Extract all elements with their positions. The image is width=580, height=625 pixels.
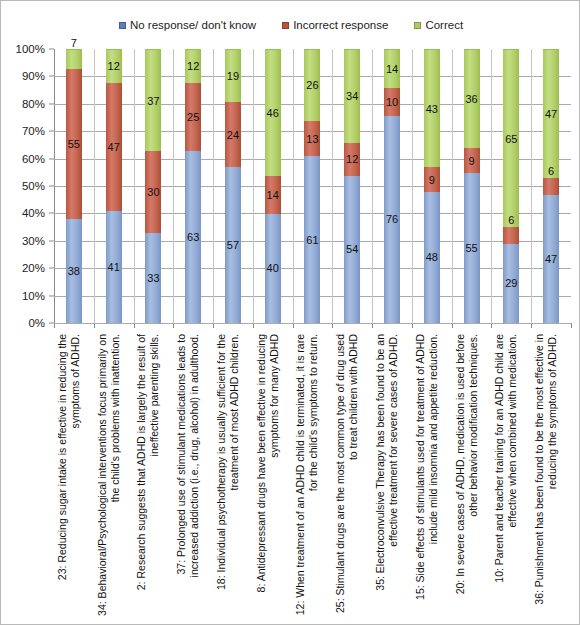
stacked-bar[interactable]: 47647	[543, 49, 559, 323]
bar-segment-incorrect-response[interactable]: 55	[66, 69, 82, 219]
y-axis-tick-label: 80%	[22, 98, 45, 110]
bar-segment-value-label: 33	[147, 272, 159, 283]
legend-label-no-response: No response/ don't know	[130, 19, 256, 31]
bar-segment-value-label: 41	[108, 262, 120, 273]
legend-item-correct: Correct	[414, 19, 463, 31]
bar-segment-correct[interactable]: 46	[265, 49, 281, 176]
bar-segment-correct[interactable]: 12	[106, 49, 122, 83]
bar-segment-value-label: 9	[429, 174, 435, 185]
category-label: 25: Stimulant drugs are the most common …	[334, 334, 359, 619]
plot-area: 7553812474137303312256319245746144026136…	[54, 49, 571, 323]
bar-segment-value-label: 25	[187, 111, 199, 122]
bar-segment-correct[interactable]: 65	[503, 49, 519, 227]
category-label: 15: Side effects of stimulants used for …	[414, 334, 439, 619]
stacked-bar[interactable]: 461440	[265, 49, 281, 323]
bar-segment-value-label: 54	[346, 244, 358, 255]
bar-slot: 65629	[491, 49, 531, 323]
bar-segment-no-response[interactable]: 61	[304, 156, 320, 323]
bar-segment-incorrect-response[interactable]: 9	[464, 148, 480, 173]
bar-segment-incorrect-response[interactable]: 14	[265, 176, 281, 214]
bar-segment-value-label: 30	[147, 186, 159, 197]
bar-segment-correct[interactable]: 47	[543, 49, 559, 178]
y-axis-tick-label: 30%	[22, 235, 45, 247]
bar-segment-incorrect-response[interactable]: 12	[344, 143, 360, 176]
bar-segment-value-label: 10	[386, 96, 398, 107]
bar-segment-incorrect-response[interactable]: 9	[424, 167, 440, 192]
stacked-bar[interactable]: 43948	[424, 49, 440, 323]
stacked-bar[interactable]: 341254	[344, 49, 360, 323]
stacked-bar[interactable]: 122563	[185, 49, 201, 323]
bar-segment-value-label: 40	[267, 263, 279, 274]
bar-segment-no-response[interactable]: 33	[145, 233, 161, 323]
bar-segment-value-label: 12	[187, 61, 199, 72]
category-label-slot: 25: Stimulant drugs are the most common …	[332, 329, 372, 621]
bar-segment-value-label: 6	[548, 166, 554, 177]
bar-segment-incorrect-response[interactable]: 30	[145, 151, 161, 233]
category-label: 20: In severe cases of ADHD, medication …	[454, 334, 479, 619]
bar-slot: 122563	[173, 49, 213, 323]
category-label-slot: 34: Behavioral/Psychological interventio…	[94, 329, 134, 621]
bar-slot: 373033	[134, 49, 174, 323]
bar-segment-no-response[interactable]: 40	[265, 214, 281, 323]
stacked-bar[interactable]: 75538	[66, 49, 82, 323]
stacked-bar[interactable]: 65629	[503, 49, 519, 323]
category-label: 36: Punishment has been found to be the …	[533, 334, 558, 619]
category-label: 35: Electroconvulsive Therapy has been f…	[374, 334, 399, 619]
category-label: 18: Individual psychotherapy is usually …	[215, 334, 240, 619]
bar-segment-value-label: 46	[267, 107, 279, 118]
bar-segment-no-response[interactable]: 63	[185, 151, 201, 323]
bar-segment-incorrect-response[interactable]: 6	[543, 178, 559, 194]
bar-segment-correct[interactable]: 12	[185, 49, 201, 83]
bar-segment-no-response[interactable]: 57	[225, 167, 241, 323]
bar-segment-correct[interactable]: 7	[66, 49, 82, 69]
category-label: 23: Reducing sugar intake is effective i…	[56, 334, 81, 619]
stacked-bar[interactable]: 141076	[384, 49, 400, 323]
y-axis-tick-label: 40%	[22, 207, 45, 219]
x-axis-tick-mark	[571, 323, 572, 328]
bar-segment-correct[interactable]: 43	[424, 49, 440, 167]
bar-segment-no-response[interactable]: 47	[543, 195, 559, 323]
bar-segment-incorrect-response[interactable]: 13	[304, 121, 320, 156]
bar-segment-incorrect-response[interactable]: 6	[503, 227, 519, 243]
bar-slot: 341254	[332, 49, 372, 323]
bar-slot: 36955	[452, 49, 492, 323]
stacked-bar[interactable]: 124741	[106, 49, 122, 323]
bar-segment-no-response[interactable]: 55	[464, 173, 480, 323]
category-label-slot: 15: Side effects of stimulants used for …	[412, 329, 452, 621]
bar-segment-value-label: 48	[426, 252, 438, 263]
bar-segment-correct[interactable]: 14	[384, 49, 400, 88]
category-label-slot: 36: Punishment has been found to be the …	[531, 329, 571, 621]
stacked-bar[interactable]: 373033	[145, 49, 161, 323]
category-label: 34: Behavioral/Psychological interventio…	[96, 334, 121, 619]
bar-segment-correct[interactable]: 37	[145, 49, 161, 151]
bar-segment-no-response[interactable]: 48	[424, 192, 440, 323]
y-axis-tick-label: 10%	[22, 290, 45, 302]
legend-swatch-incorrect-response	[282, 22, 289, 29]
bar-segment-incorrect-response[interactable]: 47	[106, 83, 122, 211]
bar-segment-value-label: 37	[147, 95, 159, 106]
bar-segment-no-response[interactable]: 54	[344, 176, 360, 323]
bar-segment-incorrect-response[interactable]: 25	[185, 83, 201, 151]
stacked-bar[interactable]: 192457	[225, 49, 241, 323]
stacked-bar[interactable]: 36955	[464, 49, 480, 323]
bar-segment-correct[interactable]: 26	[304, 49, 320, 121]
category-label-slot: 2: Research suggests that ADHD is largel…	[134, 329, 174, 621]
bar-segment-value-label: 63	[187, 231, 199, 242]
bar-segment-correct[interactable]: 34	[344, 49, 360, 143]
bar-segment-incorrect-response[interactable]: 10	[384, 88, 400, 115]
bar-segment-value-label: 47	[545, 253, 557, 264]
bar-segment-no-response[interactable]: 41	[106, 211, 122, 323]
category-label-slot: 35: Electroconvulsive Therapy has been f…	[372, 329, 412, 621]
bar-segment-value-label: 76	[386, 214, 398, 225]
bar-segment-value-label: 38	[68, 266, 80, 277]
bar-segment-incorrect-response[interactable]: 24	[225, 102, 241, 168]
stacked-bar[interactable]: 261361	[304, 49, 320, 323]
bar-segment-no-response[interactable]: 29	[503, 244, 519, 323]
bar-segment-no-response[interactable]: 76	[384, 116, 400, 323]
y-axis-tick-label: 0%	[28, 317, 45, 329]
bar-segment-correct[interactable]: 36	[464, 49, 480, 148]
legend-item-no-response: No response/ don't know	[119, 19, 256, 31]
category-label: 37: Prolonged use of stimulant medicatio…	[175, 334, 200, 619]
bar-segment-no-response[interactable]: 38	[66, 219, 82, 323]
bar-segment-correct[interactable]: 19	[225, 49, 241, 102]
